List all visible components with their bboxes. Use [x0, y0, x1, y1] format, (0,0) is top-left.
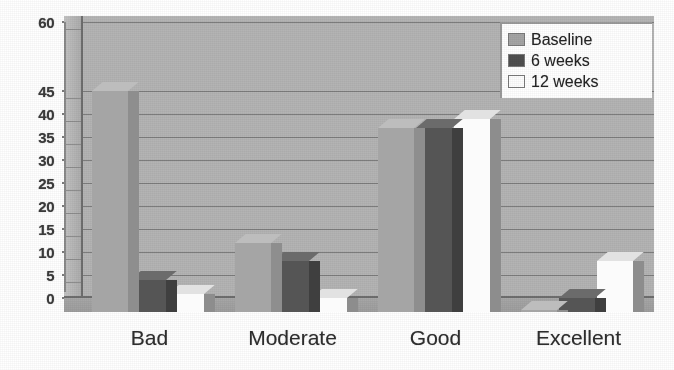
legend-swatch-12-weeks [508, 75, 525, 88]
gridline [82, 183, 654, 184]
bar-side-face [204, 294, 215, 312]
y-axis-line-back [64, 22, 66, 292]
y-axis-tick-label: 60 [38, 14, 54, 31]
bar-side-face [271, 243, 282, 312]
gridline [82, 252, 654, 253]
bar-side-face [633, 261, 644, 312]
gridline [82, 160, 654, 161]
gridline-depth [64, 29, 82, 30]
y-axis-tick-label: 10 [38, 244, 54, 261]
legend-item[interactable]: 12 weeks [508, 71, 646, 92]
bar-side-face [128, 91, 139, 312]
y-axis-tick-label: 5 [46, 267, 54, 284]
gridline-depth [64, 259, 82, 260]
chart-legend: Baseline 6 weeks 12 weeks [500, 22, 652, 98]
gridline-depth [64, 121, 82, 122]
bar-side-face [309, 261, 320, 312]
gridline-depth [64, 190, 82, 191]
y-axis: 05101520253035404560 [0, 0, 64, 318]
y-axis-tick-label: 30 [38, 152, 54, 169]
gridline [82, 229, 654, 230]
gridline-depth [64, 282, 82, 283]
gridline [82, 137, 654, 138]
y-axis-tick-label: 0 [46, 290, 54, 307]
bar-baseline-excellent[interactable] [521, 310, 557, 312]
x-axis-label-good: Good [410, 326, 461, 350]
gridline-depth [64, 167, 82, 168]
bar-baseline-good[interactable] [378, 128, 414, 312]
bar-side-face [452, 128, 463, 312]
bar-side-face [557, 310, 568, 312]
bar-side-face [166, 280, 177, 312]
chart-figure: 05101520253035404560 BadModerateGoodExce… [0, 0, 674, 370]
bar-side-face [490, 119, 501, 312]
legend-label: 6 weeks [531, 52, 590, 70]
chart-side-wall [64, 16, 82, 298]
y-axis-tick-label: 35 [38, 129, 54, 146]
gridline [82, 114, 654, 115]
y-axis-line [81, 16, 83, 298]
legend-swatch-baseline [508, 33, 525, 46]
gridline-depth [64, 236, 82, 237]
legend-item[interactable]: Baseline [508, 29, 646, 50]
y-axis-tick-label: 20 [38, 198, 54, 215]
y-axis-tick-label: 25 [38, 175, 54, 192]
gridline [82, 206, 654, 207]
y-axis-tick-label: 15 [38, 221, 54, 238]
bar-front-face [92, 91, 128, 312]
y-axis-tick-label: 40 [38, 106, 54, 123]
bar-side-face [595, 298, 606, 312]
bar-side-face [414, 128, 425, 312]
bar-front-face [235, 243, 271, 312]
y-axis-tick-label: 45 [38, 83, 54, 100]
x-axis-category-labels: BadModerateGoodExcellent [64, 322, 654, 366]
x-axis-label-moderate: Moderate [248, 326, 337, 350]
x-axis-label-bad: Bad [131, 326, 168, 350]
bar-baseline-bad[interactable] [92, 91, 128, 312]
x-axis-label-excellent: Excellent [536, 326, 621, 350]
legend-label: 12 weeks [531, 73, 599, 91]
legend-item[interactable]: 6 weeks [508, 50, 646, 71]
gridline-depth [64, 98, 82, 99]
bar-baseline-moderate[interactable] [235, 243, 271, 312]
legend-swatch-6-weeks [508, 54, 525, 67]
bar-front-face [378, 128, 414, 312]
legend-label: Baseline [531, 31, 592, 49]
gridline-depth [64, 144, 82, 145]
bar-side-face [347, 298, 358, 312]
bar-front-face [521, 310, 557, 312]
gridline-depth [64, 213, 82, 214]
